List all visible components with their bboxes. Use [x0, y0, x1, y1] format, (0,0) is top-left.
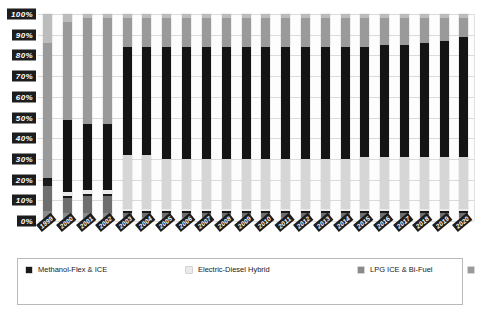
- bar-segment: [420, 18, 429, 43]
- legend-item[interactable]: Methanol-Flex & ICE: [26, 263, 186, 276]
- bar-segment: [420, 157, 429, 209]
- bar-segment: [281, 47, 290, 159]
- bar-segment: [380, 157, 389, 209]
- stacked-bar[interactable]: [202, 14, 211, 221]
- x-tick-slot: 2000: [58, 222, 78, 258]
- stacked-bar[interactable]: [123, 14, 132, 221]
- bar-segment: [301, 47, 310, 159]
- x-tick-slot: 2010: [256, 222, 276, 258]
- bar-segment: [63, 22, 72, 119]
- bar-segment: [43, 14, 52, 43]
- legend-swatch-icon: [186, 267, 192, 273]
- bar-segment: [261, 18, 270, 47]
- bar-slot: [395, 14, 415, 221]
- bar-segment: [83, 124, 92, 190]
- legend-item[interactable]: LPG ICE & Bi-Fuel: [358, 263, 468, 276]
- bar-segment: [301, 18, 310, 47]
- bar-slot: [177, 14, 197, 221]
- bar-segment: [83, 196, 92, 213]
- bar-segment: [63, 14, 72, 22]
- bar-segment: [103, 18, 112, 124]
- x-tick-slot: 2004: [137, 222, 157, 258]
- stacked-bar[interactable]: [162, 14, 171, 221]
- stacked-bar[interactable]: [222, 14, 231, 221]
- bar-segment: [380, 45, 389, 157]
- bar-segment: [440, 18, 449, 41]
- y-axis-tick-label: 60%: [12, 91, 36, 102]
- bar-segment: [222, 159, 231, 209]
- stacked-bar[interactable]: [83, 14, 92, 221]
- legend-item[interactable]: Ethanol-Flex & ICE: [468, 263, 480, 276]
- bar-segment: [242, 18, 251, 47]
- stacked-bar[interactable]: [142, 14, 151, 221]
- stacked-bar[interactable]: [459, 14, 468, 221]
- stacked-bar[interactable]: [63, 14, 72, 221]
- bar-segment: [63, 198, 72, 212]
- legend-swatch-icon: [468, 267, 474, 273]
- bar-slot: [58, 14, 78, 221]
- legend-item-label: Methanol-Flex & ICE: [38, 265, 107, 274]
- x-tick-slot: 2012: [296, 222, 316, 258]
- bar-slot: [335, 14, 355, 221]
- bar-segment: [301, 159, 310, 209]
- legend-item-label: LPG ICE & Bi-Fuel: [370, 265, 433, 274]
- stacked-bar[interactable]: [281, 14, 290, 221]
- bar-slot: [137, 14, 157, 221]
- y-axis-tick-label: 80%: [12, 50, 36, 61]
- stacked-bar[interactable]: [341, 14, 350, 221]
- bar-segment: [43, 43, 52, 178]
- x-tick-slot: 2020: [454, 222, 474, 258]
- y-axis-tick-label: 50%: [12, 112, 36, 123]
- bar-segment: [202, 47, 211, 159]
- stacked-bar[interactable]: [43, 14, 52, 221]
- stacked-bar[interactable]: [182, 14, 191, 221]
- y-axis-tick-label: 40%: [12, 133, 36, 144]
- x-tick-slot: 2014: [335, 222, 355, 258]
- legend-item[interactable]: Electric-Diesel Hybrid: [186, 263, 358, 276]
- bar-segment: [440, 41, 449, 157]
- bar-segment: [360, 18, 369, 47]
- bar-slot: [296, 14, 316, 221]
- legend-item-label: Electric-Diesel Hybrid: [198, 265, 270, 274]
- bar-segment: [281, 18, 290, 47]
- x-tick-slot: 2006: [177, 222, 197, 258]
- bar-segment: [222, 47, 231, 159]
- stacked-bar[interactable]: [360, 14, 369, 221]
- stacked-bar[interactable]: [103, 14, 112, 221]
- bar-segment: [341, 18, 350, 47]
- bar-slot: [454, 14, 474, 221]
- stacked-bar[interactable]: [400, 14, 409, 221]
- bar-slot: [38, 14, 58, 221]
- bar-segment: [162, 47, 171, 159]
- bar-slot: [78, 14, 98, 221]
- bar-segment: [162, 159, 171, 209]
- stacked-bar[interactable]: [380, 14, 389, 221]
- plot-area: [38, 14, 475, 221]
- bar-segment: [261, 47, 270, 159]
- bar-segment: [63, 120, 72, 192]
- x-axis-tick-labels: 1999200020012002200320042005200620072008…: [38, 222, 474, 258]
- bar-segment: [142, 47, 151, 155]
- bar-segment: [321, 18, 330, 47]
- bar-segment: [142, 18, 151, 47]
- x-tick-slot: 2016: [375, 222, 395, 258]
- stacked-bar[interactable]: [261, 14, 270, 221]
- bar-segment: [341, 47, 350, 159]
- bar-segment: [123, 47, 132, 155]
- stacked-bar[interactable]: [242, 14, 251, 221]
- bar-segment: [162, 18, 171, 47]
- bar-segment: [182, 47, 191, 159]
- stacked-bar[interactable]: [301, 14, 310, 221]
- stacked-bar[interactable]: [321, 14, 330, 221]
- bar-segment: [202, 159, 211, 209]
- y-axis-tick-label: 90%: [12, 29, 36, 40]
- bar-segment: [459, 18, 468, 37]
- stacked-bar[interactable]: [420, 14, 429, 221]
- bar-slot: [216, 14, 236, 221]
- bar-segment: [400, 18, 409, 45]
- bar-segment: [459, 37, 468, 157]
- x-tick-slot: 2003: [117, 222, 137, 258]
- stacked-bar[interactable]: [440, 14, 449, 221]
- y-axis-tick-label: 20%: [12, 174, 36, 185]
- bar-segment: [103, 124, 112, 190]
